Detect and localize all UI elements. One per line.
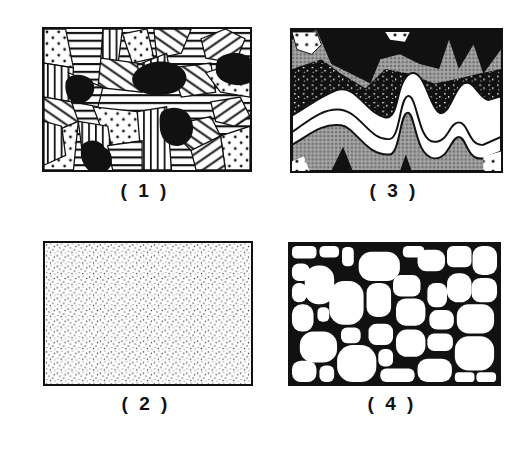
fine-stipple-graphic	[45, 243, 251, 384]
polycrystalline-mosaic-graphic	[44, 29, 250, 170]
panel-2-fine-stipple	[43, 241, 253, 386]
panel-1-polycrystalline	[42, 27, 252, 172]
panel-3-folded-layers	[290, 28, 503, 173]
panel-1-label: ( 1 )	[105, 180, 185, 202]
panel-3-label: ( 3 )	[354, 180, 434, 202]
folded-layers-graphic	[292, 30, 501, 171]
panel-4-label: ( 4 )	[352, 393, 432, 415]
panel-4-rounded-grains	[288, 242, 501, 386]
panel-2-label: ( 2 )	[106, 393, 186, 415]
rounded-grain-graphic	[290, 244, 499, 384]
